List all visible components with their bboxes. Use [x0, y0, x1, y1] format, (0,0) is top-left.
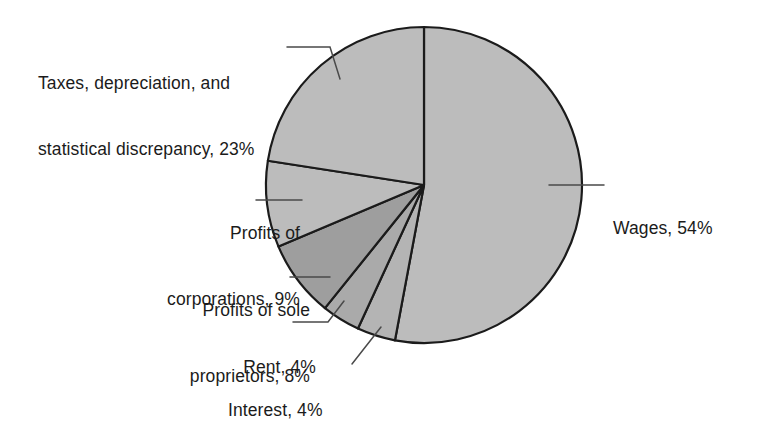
slice-label-interest: Interest, 4%	[228, 355, 323, 423]
pie-slice-taxes-depreciation-statistical-discrepancy[interactable]	[268, 27, 424, 185]
slice-label-wages-line1: Wages, 54%	[613, 217, 713, 239]
pie-slices	[266, 27, 582, 343]
slice-label-taxes-line2: statistical discrepancy, 23%	[38, 138, 254, 160]
slice-label-taxes-line1: Taxes, depreciation, and	[38, 72, 254, 94]
slice-label-interest-line1: Interest, 4%	[228, 399, 323, 421]
slice-label-wages: Wages, 54%	[613, 173, 713, 283]
slice-label-corporations-line1: Profits of	[0, 222, 300, 244]
